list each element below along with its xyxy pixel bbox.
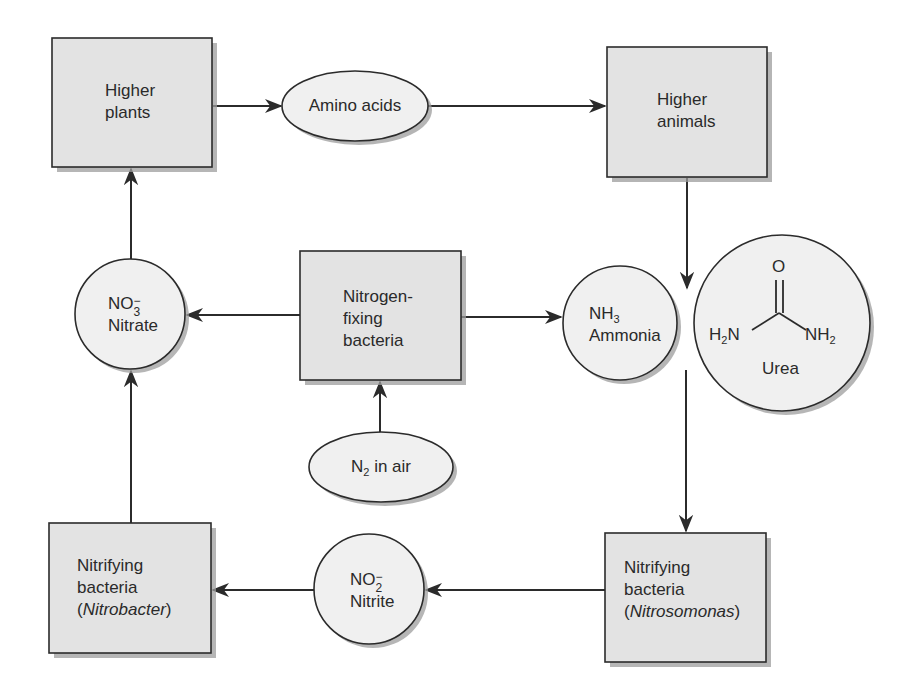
higher-animals-line2: animals (657, 111, 716, 133)
nitrite-name: Nitrite (350, 591, 394, 613)
n2-in-air-label: N2 in air (309, 456, 453, 478)
nitrobacter-genus-line: (Nitrobacter) (77, 599, 171, 621)
nitrite-label: NO−2 Nitrite (350, 569, 394, 613)
nitrate-label: NO−3 Nitrate (108, 293, 158, 337)
urea-left-group: H2N (709, 324, 740, 346)
nitrogen-fixing-line2: fixing (343, 308, 413, 330)
nitrosomonas-line1: Nitrifying (624, 557, 740, 579)
nitrosomonas-genus-line: (Nitrosomonas) (624, 601, 740, 623)
nitrosomonas-line2: bacteria (624, 579, 740, 601)
nitrobacter-line2: bacteria (77, 577, 171, 599)
ammonia-name: Ammonia (589, 325, 661, 347)
nitrosomonas-label: Nitrifying bacteria (Nitrosomonas) (624, 557, 740, 623)
nitrogen-fixing-line3: bacteria (343, 330, 413, 352)
nitrogen-fixing-label: Nitrogen- fixing bacteria (343, 286, 413, 352)
nitrite-formula: NO−2 (350, 569, 394, 591)
higher-plants-label: Higher plants (105, 80, 155, 124)
nitrate-formula: NO−3 (108, 293, 158, 315)
ammonia-label: NH3 Ammonia (589, 303, 661, 347)
urea-name: Urea (762, 358, 799, 380)
higher-animals-line1: Higher (657, 89, 716, 111)
nitrobacter-label: Nitrifying bacteria (Nitrobacter) (77, 555, 171, 621)
urea-right-group: NH2 (805, 324, 836, 346)
amino-acids-label: Amino acids (282, 95, 428, 117)
higher-plants-line2: plants (105, 102, 155, 124)
ammonia-formula: NH3 (589, 303, 661, 325)
nitrobacter-line1: Nitrifying (77, 555, 171, 577)
higher-plants-line1: Higher (105, 80, 155, 102)
nitrogen-fixing-line1: Nitrogen- (343, 286, 413, 308)
higher-animals-label: Higher animals (657, 89, 716, 133)
urea-top-atom: O (772, 256, 785, 278)
amino-acids-text: Amino acids (309, 96, 402, 115)
